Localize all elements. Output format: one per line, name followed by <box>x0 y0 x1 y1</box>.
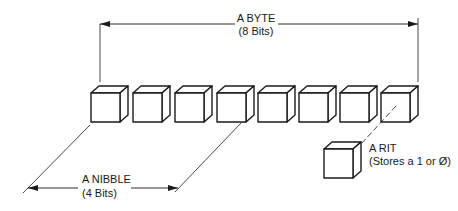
bit-sublabel: (Stores a 1 or Ø) <box>369 155 451 167</box>
byte-label: A BYTE <box>237 12 276 24</box>
nibble-dimension: A NIBBLE (4 Bits) <box>23 123 241 199</box>
bit-cube-5 <box>258 86 295 122</box>
byte-dimension: A BYTE (8 Bits) <box>100 12 418 82</box>
bit-cube-2 <box>133 86 170 122</box>
nibble-extension-line-left <box>23 125 90 193</box>
arrow-right-icon <box>408 21 418 27</box>
byte-diagram: A BYTE (8 Bits) <box>0 0 458 211</box>
diagram-canvas: A BYTE (8 Bits) <box>0 0 458 211</box>
bit-cube-6 <box>299 86 336 122</box>
nibble-label: A NIBBLE <box>82 173 131 185</box>
byte-cubes <box>91 86 418 122</box>
byte-sublabel: (8 Bits) <box>239 25 274 37</box>
bit-cube-7 <box>340 86 377 122</box>
bit-cube-4 <box>217 86 254 122</box>
single-bit-cube <box>324 142 361 178</box>
nibble-extension-line-right <box>175 123 241 192</box>
nibble-sublabel: (4 Bits) <box>82 187 117 199</box>
bit-cube-1 <box>91 86 128 122</box>
bit-cube-3 <box>175 86 212 122</box>
arrow-left-icon <box>100 21 110 27</box>
bit-label: A RIT <box>369 142 397 154</box>
